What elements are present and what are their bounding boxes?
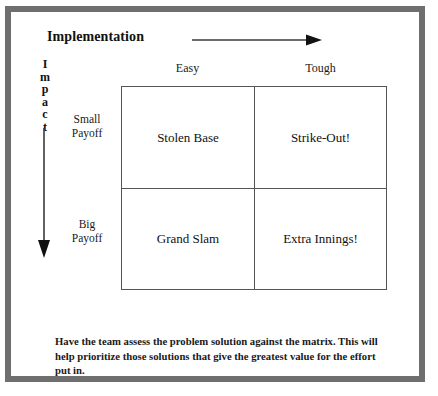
row-label-small-payoff-line1: Small — [57, 113, 117, 127]
figure-caption: Have the team assess the problem solutio… — [55, 334, 385, 378]
prioritization-matrix-figure: Implementation I m p a c t Easy Tough Sm… — [0, 0, 438, 396]
row-label-small-payoff-line2: Payoff — [57, 127, 117, 141]
row-label-big-payoff-line1: Big — [57, 218, 117, 232]
arrow-down-icon — [36, 128, 52, 258]
arrow-right-icon — [192, 33, 322, 47]
matrix-grid: Stolen Base Strike-Out! Grand Slam Extra… — [121, 86, 387, 290]
matrix-cell-easy-big-payoff[interactable]: Grand Slam — [122, 188, 254, 289]
row-label-small-payoff: Small Payoff — [57, 113, 117, 140]
y-axis-letter-1: I — [38, 58, 52, 71]
matrix-cell-easy-small-payoff[interactable]: Stolen Base — [122, 87, 254, 188]
y-axis-letter-3: p — [38, 83, 52, 96]
row-label-big-payoff-line2: Payoff — [57, 232, 117, 246]
y-axis-title: I m p a c t — [38, 58, 52, 134]
column-header-tough: Tough — [254, 61, 387, 76]
x-axis-title: Implementation — [47, 29, 144, 45]
row-label-big-payoff: Big Payoff — [57, 218, 117, 245]
column-header-easy: Easy — [121, 61, 254, 76]
matrix-cell-tough-small-payoff[interactable]: Strike-Out! — [254, 87, 386, 188]
matrix-cell-tough-big-payoff[interactable]: Extra Innings! — [254, 188, 386, 289]
